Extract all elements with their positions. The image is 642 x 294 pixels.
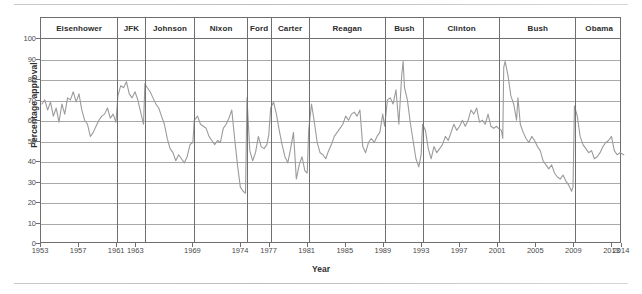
y-tick-mark	[36, 182, 40, 183]
president-band-label-johnson-2: Johnson	[145, 18, 195, 38]
president-band-label-ford-4: Ford	[247, 18, 271, 38]
y-tick-label-90: 90	[8, 54, 36, 63]
x-tick-mark	[240, 243, 241, 247]
y-tick-mark	[36, 120, 40, 121]
y-tick-label-60: 60	[8, 116, 36, 125]
president-band-header: EisenhowerJFKJohnsonNixonFordCarterReaga…	[40, 17, 621, 38]
president-band-label-obama-10: Obama	[575, 18, 622, 38]
x-tick-label-1974: 1974	[232, 246, 249, 255]
x-tick-label-1977: 1977	[260, 246, 277, 255]
y-axis-ticks: 1009080706050403020100	[0, 38, 642, 243]
x-tick-label-1957: 1957	[70, 246, 87, 255]
x-tick-mark	[135, 243, 136, 247]
x-axis-title: Year	[0, 264, 642, 274]
x-tick-mark	[192, 243, 193, 247]
y-tick-mark	[36, 202, 40, 203]
y-tick-label-40: 40	[8, 157, 36, 166]
approval-rating-chart-figure: Percentage approval Year EisenhowerJFKJo…	[0, 0, 642, 294]
x-tick-mark	[573, 243, 574, 247]
president-band-label-eisenhower-0: Eisenhower	[41, 18, 117, 38]
x-tick-mark	[497, 243, 498, 247]
y-tick-label-20: 20	[8, 198, 36, 207]
y-tick-mark	[36, 79, 40, 80]
x-tick-label-2009: 2009	[565, 246, 582, 255]
x-tick-mark	[535, 243, 536, 247]
x-tick-label-2005: 2005	[527, 246, 544, 255]
x-tick-label-1961: 1961	[108, 246, 125, 255]
x-tick-label-1981: 1981	[298, 246, 315, 255]
x-tick-mark	[345, 243, 346, 247]
x-tick-mark	[459, 243, 460, 247]
y-tick-label-70: 70	[8, 95, 36, 104]
y-tick-mark	[36, 223, 40, 224]
y-tick-mark	[36, 161, 40, 162]
president-band-label-jfk-1: JFK	[117, 18, 145, 38]
x-tick-mark	[116, 243, 117, 247]
y-tick-mark	[36, 141, 40, 142]
x-tick-label-1997: 1997	[451, 246, 468, 255]
y-tick-label-10: 10	[8, 218, 36, 227]
x-tick-label-1969: 1969	[184, 246, 201, 255]
x-tick-label-2014: 2014	[613, 246, 630, 255]
x-tick-mark	[78, 243, 79, 247]
y-tick-mark	[36, 59, 40, 60]
y-tick-label-80: 80	[8, 75, 36, 84]
y-tick-mark	[36, 100, 40, 101]
x-tick-label-2001: 2001	[489, 246, 506, 255]
x-tick-mark	[621, 243, 622, 247]
x-tick-mark	[421, 243, 422, 247]
x-tick-mark	[40, 243, 41, 247]
x-tick-label-1993: 1993	[413, 246, 430, 255]
president-band-label-nixon-3: Nixon	[194, 18, 246, 38]
y-tick-label-100: 100	[8, 34, 36, 43]
x-tick-mark	[269, 243, 270, 247]
y-tick-label-30: 30	[8, 177, 36, 186]
y-tick-mark	[36, 38, 40, 39]
bottom-divider-rule	[14, 283, 628, 284]
x-tick-mark	[383, 243, 384, 247]
president-band-label-carter-5: Carter	[271, 18, 309, 38]
x-tick-label-1985: 1985	[336, 246, 353, 255]
x-tick-label-1963: 1963	[127, 246, 144, 255]
president-band-label-reagan-6: Reagan	[309, 18, 385, 38]
president-band-label-bush-7: Bush	[385, 18, 423, 38]
president-band-label-bush-9: Bush	[499, 18, 575, 38]
x-tick-label-1953: 1953	[32, 246, 49, 255]
top-divider-rule	[14, 4, 628, 5]
president-band-label-clinton-8: Clinton	[423, 18, 499, 38]
x-tick-label-1989: 1989	[375, 246, 392, 255]
x-tick-mark	[307, 243, 308, 247]
y-tick-label-50: 50	[8, 136, 36, 145]
